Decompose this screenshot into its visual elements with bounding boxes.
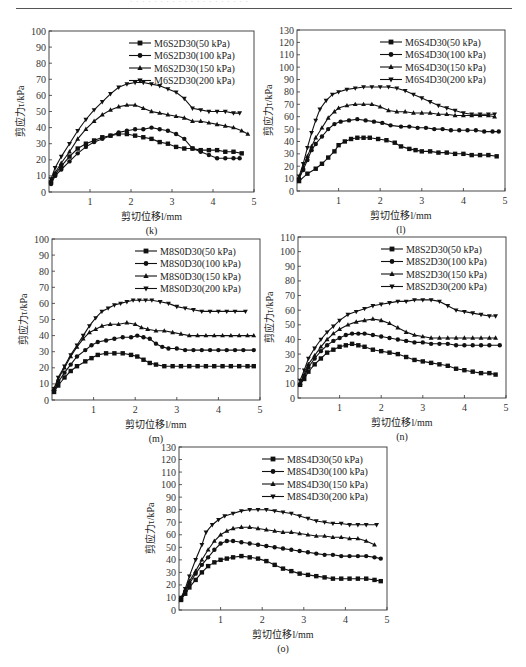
square-marker-icon [148,361,152,365]
square-marker-icon [494,154,498,158]
y-tick-label: 10 [166,592,176,603]
square-marker-icon [339,576,343,580]
square-marker-icon [215,148,219,152]
square-marker-icon [387,350,391,354]
square-marker-icon [240,151,244,155]
data-series [49,102,251,182]
y-tick-label: 50 [284,124,294,135]
square-marker-icon [493,372,497,376]
circle-marker-icon [404,339,408,343]
circle-marker-icon [325,343,329,347]
circle-marker-icon [322,553,326,557]
x-tick-label: 1 [91,404,96,415]
triangle-down-marker-icon [309,131,314,135]
legend-label: M6S4D30(100 kPa) [405,49,486,61]
legend-label: M6S2D30(200 kPa) [154,75,235,87]
circle-marker-icon [92,140,96,144]
circle-marker-icon [390,259,395,264]
circle-marker-icon [104,338,108,342]
circle-marker-icon [100,137,104,141]
circle-marker-icon [75,354,79,358]
y-tick-label: 60 [166,529,176,540]
y-tick-label: 20 [285,363,295,374]
square-marker-icon [445,150,449,154]
circle-marker-icon [331,339,335,343]
circle-marker-icon [200,348,204,352]
x-axis-title: 剪切位移l/mm [125,418,186,430]
header-text: · · · · · · · · · · · · · · · · · · · · [130,0,390,6]
circle-marker-icon [462,343,466,347]
square-marker-icon [347,576,351,580]
square-marker-icon [344,343,348,347]
legend-label: M8S4D30(150 kPa) [287,479,368,491]
square-marker-icon [379,349,383,353]
square-marker-icon [343,139,347,143]
y-tick-label: 40 [39,330,49,341]
square-marker-icon [487,371,491,375]
legend-item: M8S0D30(50 kPa) [135,246,236,258]
triangle-up-marker-icon [309,144,314,148]
circle-marker-icon [326,127,330,131]
square-marker-icon [104,351,108,355]
square-marker-icon [193,578,197,582]
circle-marker-icon [225,348,229,352]
triangle-down-marker-icon [317,108,322,112]
circle-marker-icon [149,125,153,129]
square-marker-icon [207,148,211,152]
triangle-down-marker-icon [313,119,318,123]
legend-item: M8S4D30(200 kPa) [262,491,368,503]
circle-marker-icon [208,348,212,352]
circle-marker-icon [432,127,436,131]
square-marker-icon [305,171,309,175]
circle-marker-icon [482,129,486,133]
y-tick-label: 100 [161,479,176,490]
circle-marker-icon [355,117,359,121]
circle-marker-icon [387,336,391,340]
circle-marker-icon [223,156,227,160]
triangle-down-marker-icon [204,531,209,535]
square-marker-icon [229,364,233,368]
square-marker-icon [428,149,432,153]
legend-item: M6S2D30(200 kPa) [129,75,235,87]
square-marker-icon [312,362,316,366]
circle-marker-icon [437,342,441,346]
circle-marker-icon [231,156,235,160]
y-axis-title: 剪应力τ/kPa [263,291,275,343]
legend-label: M8S4D30(50 kPa) [287,454,363,466]
circle-marker-icon [272,545,276,549]
square-marker-icon [162,364,166,368]
square-marker-icon [412,358,416,362]
y-tick-label: 40 [36,122,46,133]
square-marker-icon [420,149,424,153]
legend-label: M6S4D30(50 kPa) [405,37,481,49]
square-marker-icon [486,153,490,157]
y-tick-label: 20 [284,161,294,172]
circle-marker-icon [306,550,310,554]
circle-marker-icon [89,343,93,347]
square-marker-icon [390,247,395,252]
y-tick-label: 100 [34,234,49,245]
x-axis-title: 剪切位移l/mm [121,210,182,222]
circle-marker-icon [379,556,383,560]
circle-marker-icon [347,554,351,558]
x-tick-label: 4 [216,404,221,415]
x-axis-title: 剪切位移l/mm [252,628,313,640]
square-marker-icon [220,364,224,368]
circle-marker-icon [364,554,368,558]
y-tick-label: 30 [36,138,46,149]
header-rule [16,8,512,9]
circle-marker-icon [248,541,252,545]
y-tick-label: 30 [166,567,176,578]
circle-marker-icon [83,348,87,352]
circle-marker-icon [347,118,351,122]
square-marker-icon [322,575,326,579]
circle-marker-icon [206,555,210,559]
circle-marker-icon [138,53,143,58]
circle-marker-icon [199,150,203,154]
y-tick-label: 80 [36,58,46,69]
x-tick-label: 1 [337,402,342,413]
square-marker-icon [479,371,483,375]
square-marker-icon [396,352,400,356]
square-marker-icon [174,145,178,149]
legend: M8S0D30(50 kPa)M8S0D30(100 kPa)M8S0D30(1… [135,246,241,296]
